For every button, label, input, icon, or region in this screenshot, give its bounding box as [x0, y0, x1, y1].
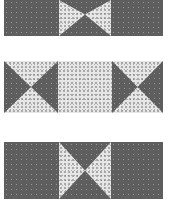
quilt-row-top [4, 0, 163, 36]
quilt-row-bottom [4, 142, 163, 199]
hourglass-square [59, 142, 111, 199]
hourglass-square [112, 61, 163, 113]
dark-square [4, 142, 59, 199]
dark-square [4, 0, 59, 36]
light-square [58, 61, 112, 113]
dark-square [111, 142, 163, 199]
hourglass-square [59, 0, 111, 36]
hourglass-square [4, 61, 58, 113]
quilt-row-middle [4, 61, 163, 113]
dark-square [111, 0, 163, 36]
